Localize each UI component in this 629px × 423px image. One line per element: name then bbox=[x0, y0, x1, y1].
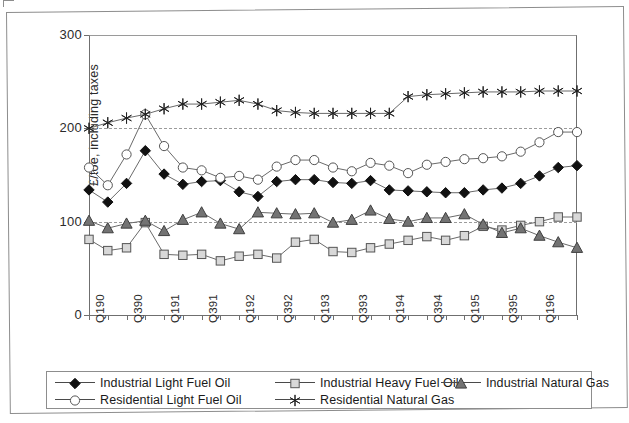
legend-label: Residential Natural Gas bbox=[320, 393, 454, 407]
legend-marker-filled-triangle bbox=[441, 377, 481, 389]
x-tick-label: Q192 bbox=[244, 294, 256, 323]
data-point-open-square bbox=[291, 379, 299, 387]
data-point-open-circle bbox=[70, 395, 79, 404]
x-tick-mark bbox=[314, 315, 315, 320]
x-tick-mark bbox=[277, 315, 278, 320]
legend-entry-residential-light-fuel-oil[interactable]: Residential Light Fuel Oil bbox=[55, 391, 242, 408]
x-tick-label: Q395 bbox=[507, 294, 519, 323]
x-tick-mark bbox=[258, 315, 259, 320]
y-tick-label-200: 200 bbox=[46, 120, 82, 135]
x-tick-label: Q193 bbox=[319, 294, 331, 323]
x-tick-label: Q393 bbox=[357, 294, 369, 323]
x-tick-label: Q392 bbox=[282, 294, 294, 323]
x-tick-mark bbox=[521, 315, 522, 320]
y-tick-label-0: 0 bbox=[46, 307, 82, 322]
legend-marker-open-circle bbox=[55, 394, 95, 406]
x-tick-mark bbox=[108, 315, 109, 320]
x-tick-label: Q390 bbox=[132, 294, 144, 323]
x-tick-mark bbox=[502, 315, 503, 320]
x-tick-label: Q394 bbox=[432, 294, 444, 323]
data-point-filled-diamond bbox=[70, 378, 80, 388]
legend-entry-industrial-light-fuel-oil[interactable]: Industrial Light Fuel Oil bbox=[55, 374, 230, 391]
chart-legend: Industrial Light Fuel Oil Industrial Hea… bbox=[46, 371, 592, 409]
x-tick-mark bbox=[408, 315, 409, 320]
x-tick-mark bbox=[295, 315, 296, 320]
x-tick-label: Q196 bbox=[544, 294, 556, 323]
x-tick-label: Q191 bbox=[169, 294, 181, 323]
legend-entry-industrial-heavy-fuel-oil[interactable]: Industrial Heavy Fuel Oil bbox=[275, 374, 459, 391]
chart-container: £/toe, including taxes 300 200 100 0 Q19… bbox=[0, 0, 629, 423]
x-tick-mark bbox=[127, 315, 128, 320]
legend-row-2: Residential Light Fuel Oil Residential N… bbox=[47, 391, 591, 408]
x-tick-label: Q391 bbox=[207, 294, 219, 323]
x-tick-mark bbox=[539, 315, 540, 320]
data-point-star bbox=[290, 394, 300, 405]
x-tick-mark bbox=[446, 315, 447, 320]
x-tick-mark bbox=[352, 315, 353, 320]
legend-label: Industrial Heavy Fuel Oil bbox=[320, 376, 459, 390]
x-tick-mark bbox=[145, 315, 146, 320]
legend-marker-filled-diamond bbox=[55, 377, 95, 389]
x-tick-mark bbox=[371, 315, 372, 320]
legend-marker-star bbox=[275, 394, 315, 406]
x-tick-mark bbox=[220, 315, 221, 320]
x-tick-label: Q195 bbox=[469, 294, 481, 323]
x-tick-mark bbox=[558, 315, 559, 320]
x-tick-mark bbox=[164, 315, 165, 320]
gridline-200 bbox=[89, 128, 577, 129]
legend-label: Industrial Light Fuel Oil bbox=[100, 376, 230, 390]
gridline-100 bbox=[89, 222, 577, 223]
x-tick-label: Q190 bbox=[94, 294, 106, 323]
x-tick-mark bbox=[202, 315, 203, 320]
x-tick-mark bbox=[333, 315, 334, 320]
x-tick-mark bbox=[483, 315, 484, 320]
legend-label: Residential Light Fuel Oil bbox=[100, 393, 242, 407]
y-tick-label-300: 300 bbox=[46, 27, 82, 42]
x-tick-mark bbox=[464, 315, 465, 320]
legend-label: Industrial Natural Gas bbox=[486, 376, 609, 390]
x-tick-mark bbox=[389, 315, 390, 320]
y-tick-label-100: 100 bbox=[46, 214, 82, 229]
legend-marker-open-square bbox=[275, 377, 315, 389]
x-tick-mark bbox=[427, 315, 428, 320]
x-tick-label: Q194 bbox=[394, 294, 406, 323]
data-point-filled-triangle bbox=[455, 377, 466, 387]
plot-frame bbox=[89, 35, 577, 315]
legend-entry-industrial-natural-gas[interactable]: Industrial Natural Gas bbox=[441, 374, 609, 391]
x-tick-mark bbox=[577, 315, 578, 320]
x-tick-mark bbox=[89, 315, 90, 320]
legend-entry-residential-natural-gas[interactable]: Residential Natural Gas bbox=[275, 391, 454, 408]
legend-row-1: Industrial Light Fuel Oil Industrial Hea… bbox=[47, 374, 591, 391]
x-tick-mark bbox=[239, 315, 240, 320]
x-tick-mark bbox=[183, 315, 184, 320]
